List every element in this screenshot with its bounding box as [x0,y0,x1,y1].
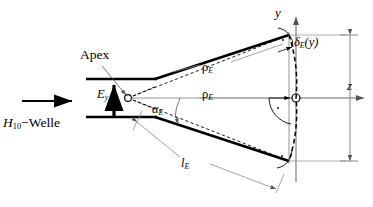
figure-vector-canvas [0,0,373,207]
horn-length-subscript: E [184,162,189,171]
alpha-angle-arc [175,98,180,124]
apex-label: Apex [80,48,109,62]
flare-angle-subscript: E [159,108,164,117]
delta-argument: (y) [305,35,319,49]
rho-upper-subscript: E [208,66,213,75]
field-ey-symbol: E [97,87,105,101]
axis-z-label: z [347,79,352,92]
rho-mid-subscript: E [208,93,213,102]
horn-flare-upper [155,35,289,79]
horn-length-label: lE [181,157,189,171]
flare-angle-label: αE [152,103,163,117]
rho-upper-label: ρE [202,61,213,75]
incident-wave-label: H10−Welle [3,116,60,132]
axis-y-label: y [275,6,281,19]
incident-wave-mode-index: 10 [13,122,21,131]
rho-upper-leader [172,44,283,72]
delta-angle-arc [278,28,293,52]
delta-phase-error-label: δE(y) [294,36,318,50]
incident-wave-symbol: H [3,115,13,130]
horn-antenna-figure: Apex H10−Welle Ey αE ρE ρE δE(y) lE y z [0,0,373,207]
rho-mid-label: ρE [202,88,213,102]
incident-wave-text: −Welle [21,115,60,130]
horn-flare-lower [155,117,289,161]
origin-angle-arc [269,98,291,124]
field-ey-subscript: y [105,93,108,102]
apex-marker-icon [125,95,132,102]
field-ey-label: Ey [97,88,108,102]
